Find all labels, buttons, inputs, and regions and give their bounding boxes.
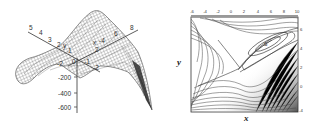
x-tick-6: 6 — [114, 30, 118, 37]
z-tick-0: 0 — [72, 58, 76, 65]
y-tick-3: 3 — [48, 36, 52, 43]
x-ticks-top: -6 -4 -2 0 2 4 6 8 10 — [190, 9, 300, 14]
y-tick-neg2: -2 — [57, 60, 63, 67]
z-tick-neg200: -200 — [58, 74, 71, 81]
x-tick-8: 8 — [130, 24, 134, 31]
x-tick-2: 2 — [95, 46, 99, 53]
y-tick-2: 2 — [57, 41, 61, 48]
z-tick-neg600: -600 — [58, 104, 71, 111]
xtick: 6 — [270, 9, 273, 14]
ytick: 2 — [300, 65, 303, 70]
ytick: 4 — [300, 46, 303, 51]
y-tick-1: 1 — [68, 47, 72, 54]
y-tick-5: 5 — [29, 24, 33, 31]
contour-xlabel: x — [243, 113, 249, 123]
y-tick-4: 4 — [39, 29, 43, 36]
xtick: 8 — [283, 9, 286, 14]
ytick: 0 — [300, 84, 303, 89]
y-ticks-right: 6 4 2 0 -4 — [299, 27, 303, 113]
ytick: -4 — [299, 108, 303, 113]
surface-plot: 5 4 3 2 y 1 -2 0 2 x -4 6 8 -1 -2 -200 -… — [16, 11, 152, 113]
z-tick-neg400: -400 — [58, 90, 71, 97]
x-tick-neg4: -4 — [99, 37, 105, 44]
xtick: -4 — [203, 9, 207, 14]
contour-plot: S -6 -4 -2 0 2 4 6 8 10 6 4 2 0 -4 y x — [176, 9, 303, 123]
xtick: 2 — [243, 9, 246, 14]
x-tick-neg2: -2 — [93, 64, 99, 71]
xtick: 4 — [257, 9, 260, 14]
x-tick-neg1: -1 — [84, 58, 90, 65]
ytick: 6 — [300, 27, 303, 32]
figure: 5 4 3 2 y 1 -2 0 2 x -4 6 8 -1 -2 -200 -… — [0, 0, 318, 127]
contour-ylabel: y — [176, 57, 182, 67]
xtick: 10 — [295, 9, 300, 14]
xtick: -2 — [216, 9, 220, 14]
xtick: 0 — [230, 9, 233, 14]
xtick: -6 — [190, 9, 194, 14]
